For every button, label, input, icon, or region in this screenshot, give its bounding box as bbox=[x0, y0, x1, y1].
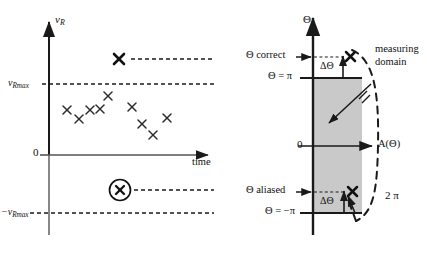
scatter-marker bbox=[86, 106, 94, 114]
aliased-point-circled bbox=[110, 180, 215, 201]
vrmax-gridline-label: vRmax bbox=[8, 78, 29, 90]
scatter-marker bbox=[96, 105, 104, 113]
measuring-domain-label-line1: measuring bbox=[375, 44, 419, 55]
scatter-marker bbox=[163, 114, 171, 122]
figure-canvas bbox=[0, 0, 427, 259]
right-xaxis-label: A(Θ) bbox=[378, 139, 400, 150]
two-pi-label: 2 π bbox=[385, 190, 399, 201]
measuring-domain-label-line2: domain bbox=[375, 57, 407, 68]
theta-correct-label: Θ correct bbox=[246, 50, 285, 61]
scatter-marker bbox=[138, 120, 146, 128]
left-yaxis-label: vR bbox=[55, 14, 65, 27]
origin-label-right: 0 bbox=[297, 139, 303, 150]
delta-theta-top-label: ΔΘ bbox=[320, 61, 334, 71]
theta-minus-pi-label: Θ = −π bbox=[265, 206, 295, 217]
aliasing-figure: vR vRmax 0 −vRmax time Θ Θ correct Θ = π… bbox=[0, 0, 427, 259]
right-yaxis-label: Θ bbox=[303, 14, 311, 25]
scatter-marker bbox=[128, 103, 136, 111]
left-xaxis-label: time bbox=[192, 157, 211, 168]
scatter-marker bbox=[149, 131, 157, 139]
theta-pi-label: Θ = π bbox=[268, 71, 292, 82]
theta-aliased-label: Θ aliased bbox=[246, 185, 285, 196]
scatter-marker bbox=[63, 106, 71, 114]
theta-correct-marker bbox=[346, 52, 355, 61]
origin-label-left: 0 bbox=[33, 147, 39, 158]
negative-vrmax-gridline-label: −vRmax bbox=[1, 207, 29, 219]
left-panel-scatter-points bbox=[63, 92, 171, 139]
scatter-marker bbox=[104, 92, 112, 100]
scatter-marker bbox=[75, 115, 83, 123]
aliased-point-high bbox=[114, 54, 214, 64]
delta-theta-bottom-label: ΔΘ bbox=[320, 196, 334, 206]
